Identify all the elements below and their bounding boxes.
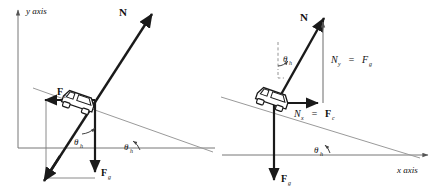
incline-line-right [221, 97, 420, 158]
gravity-force-rhs-sub: g [369, 61, 372, 67]
bank-angle-ground-label-right: θ [314, 145, 319, 155]
bank-angle-inner-sub-left: h [80, 143, 83, 149]
gravity-force-sub-right: g [288, 180, 291, 186]
figure-svg: N F c F g θ h θ h y axis [0, 0, 443, 190]
physics-figure-canvas: N F c F g θ h θ h y axis [0, 0, 443, 190]
bank-angle-top-label-right: θ [283, 54, 288, 64]
gravity-force-sub-left: g [108, 174, 111, 180]
equals-sign-vertical: = [348, 54, 355, 65]
horizontal-component-sub: x [300, 115, 304, 121]
left-diagram-group: N F c F g θ h θ h y axis [18, 6, 215, 181]
equals-sign-horizontal: = [311, 108, 318, 119]
bank-angle-top-sub-right: h [289, 60, 292, 66]
gravity-force-rhs-label: F [361, 54, 369, 65]
angle-arc-ground-left [133, 141, 140, 150]
normal-force-label-left: N [119, 6, 127, 18]
y-axis-label: y axis [25, 6, 47, 16]
normal-force-label-right: N [300, 11, 308, 23]
reference-corner-dashed [278, 72, 284, 78]
angle-arc-ground-right [325, 145, 330, 153]
centripetal-force-rhs-sub: c [332, 115, 335, 121]
right-diagram-group: N N y = F g N x = F c F g θ h θ h x axis [221, 11, 428, 186]
bank-angle-ground-label-left: θ [124, 142, 129, 152]
centripetal-force-rhs-label: F [325, 108, 331, 119]
vertical-component-sub: y [337, 61, 341, 67]
gravity-force-label-left: F [101, 167, 107, 178]
centripetal-force-sub-left: c [64, 93, 67, 99]
bank-angle-ground-sub-right: h [320, 151, 323, 157]
bank-angle-inner-label-left: θ [74, 137, 79, 147]
gravity-force-label-right: F [281, 173, 287, 184]
incline-line-left [33, 88, 213, 152]
x-axis-label: x axis [396, 165, 418, 175]
angle-arc-inner-left [82, 128, 95, 134]
bank-angle-ground-sub-left: h [130, 148, 133, 154]
centripetal-force-label-left: F [57, 86, 63, 97]
